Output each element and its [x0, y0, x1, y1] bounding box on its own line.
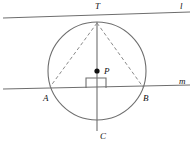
center-point-dot-p: [94, 68, 99, 73]
point-label-b: B: [143, 93, 149, 103]
point-label-p: P: [103, 66, 110, 76]
geometry-diagram: T P A B C l m: [0, 0, 193, 145]
line-label-m: m: [179, 76, 186, 86]
geometry-canvas: T P A B C l m: [0, 0, 193, 145]
point-label-c: C: [100, 131, 107, 141]
chord-t-to-a: [50, 23, 97, 87]
line-label-l: l: [180, 1, 183, 11]
chord-t-to-b: [97, 23, 143, 87]
point-label-t: T: [95, 1, 101, 11]
tangent-line-l: [3, 12, 190, 18]
point-label-a: A: [42, 93, 49, 103]
